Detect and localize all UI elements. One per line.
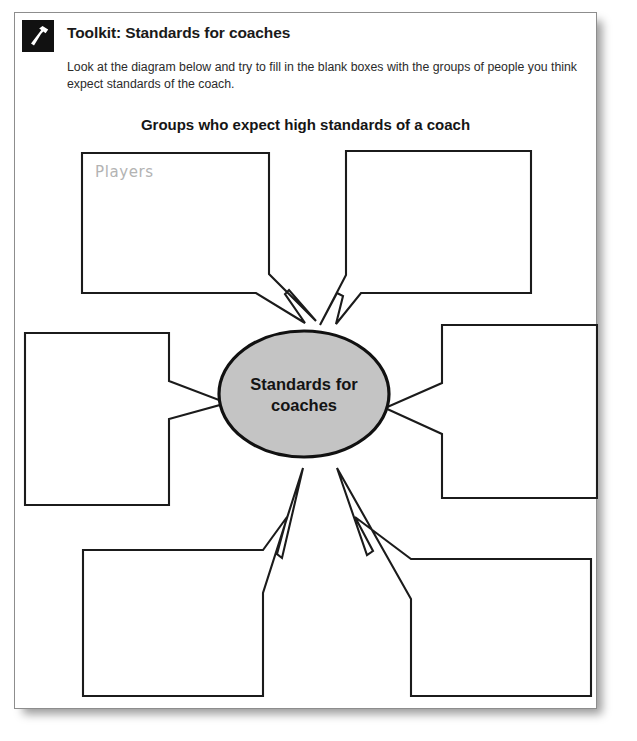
callout-box-top-right[interactable] [320, 151, 531, 325]
worksheet-page: Toolkit: Standards for coaches Look at t… [14, 12, 597, 709]
center-hub [219, 331, 389, 457]
answer-text-top-left: Players [95, 163, 154, 181]
center-hub-label-line1: Standards for [250, 375, 358, 393]
callout-box-middle-right[interactable] [385, 325, 597, 498]
center-hub-label-line2: coaches [271, 396, 337, 414]
callout-box-bottom-right[interactable] [337, 468, 591, 696]
spider-diagram: Players Standards for coaches [15, 13, 598, 710]
callout-box-middle-left[interactable] [25, 333, 227, 505]
